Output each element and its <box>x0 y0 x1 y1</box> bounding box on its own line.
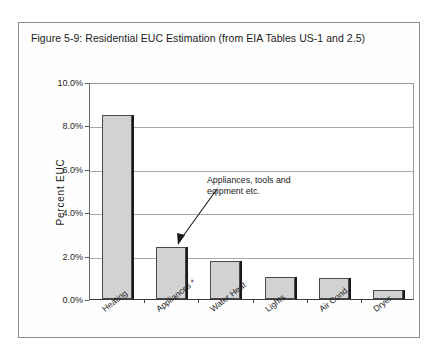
y-axis-tick-label: 2.0% <box>39 252 83 262</box>
y-axis-tick-mark <box>85 300 89 301</box>
y-axis-tick-mark <box>85 83 89 84</box>
y-axis-tick-label: 8.0% <box>39 121 83 131</box>
y-axis-tick-label: 6.0% <box>39 165 83 175</box>
x-axis-tick-mark <box>253 299 254 303</box>
figure-title: Figure 5-9: Residential EUC Estimation (… <box>31 32 365 44</box>
gridline <box>90 171 413 172</box>
y-axis-tick-mark <box>85 170 89 171</box>
y-axis-tick-mark <box>85 126 89 127</box>
x-axis-tick-mark <box>361 299 362 303</box>
annotation-callout: Appliances, tools and eqipment etc. <box>207 175 291 197</box>
x-axis-tick-mark <box>307 299 308 303</box>
annotation-line-2: eqipment etc. <box>207 186 291 197</box>
gridline <box>90 214 413 215</box>
gridline <box>90 258 413 259</box>
gridline <box>90 84 413 85</box>
annotation-line-1: Appliances, tools and <box>207 175 291 186</box>
bar-heating[interactable] <box>102 115 132 299</box>
y-axis-tick-label: 10.0% <box>39 78 83 88</box>
y-axis-tick-mark <box>85 257 89 258</box>
y-axis-tick-label: 4.0% <box>39 208 83 218</box>
figure-frame: Figure 5-9: Residential EUC Estimation (… <box>18 22 420 338</box>
y-axis-tick-mark <box>85 213 89 214</box>
y-axis-tick-label: 0.0% <box>39 295 83 305</box>
x-axis-tick-mark <box>144 299 145 303</box>
gridline <box>90 127 413 128</box>
x-axis-tick-mark <box>198 299 199 303</box>
